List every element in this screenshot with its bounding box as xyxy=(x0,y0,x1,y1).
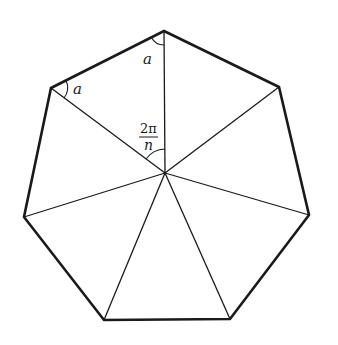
heptagon-diagram: a a 2π n xyxy=(0,0,338,345)
spoke-lower-left xyxy=(24,173,165,217)
central-angle-numerator: 2π xyxy=(140,121,157,136)
spokes xyxy=(24,31,309,320)
spoke-top xyxy=(164,31,165,173)
spoke-bottom-right xyxy=(165,173,230,319)
spoke-upper-right xyxy=(165,87,279,173)
angle-arc-left xyxy=(64,81,68,99)
spoke-lower-right xyxy=(165,173,309,215)
spoke-bottom-left xyxy=(104,173,165,320)
angle-arc-top xyxy=(152,38,165,46)
angle-label-top: a xyxy=(143,50,152,68)
central-angle-denominator: n xyxy=(144,137,153,153)
angle-label-left: a xyxy=(73,80,82,98)
